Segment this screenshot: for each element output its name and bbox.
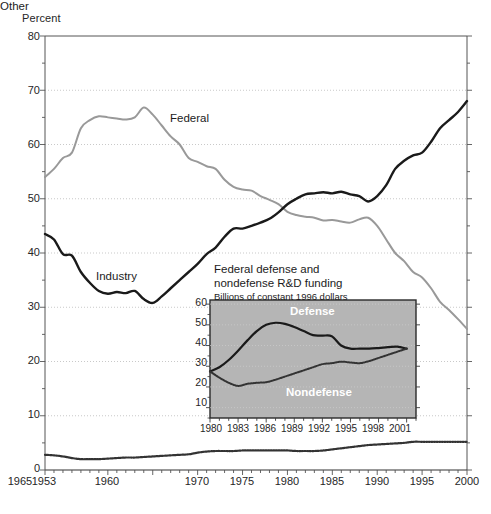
inset-series-label-nondefense: Nondefense — [286, 386, 352, 398]
y-tick-10: 10 — [12, 408, 40, 420]
y-tick-60: 60 — [12, 138, 40, 150]
inset-y-tick-40: 40 — [189, 336, 207, 348]
inset-y-tick-30: 30 — [189, 356, 207, 368]
inset-title-line2: nondefense R&D funding — [214, 277, 343, 291]
x-tick-1985: 1985 — [312, 475, 352, 487]
chart-canvas — [0, 0, 491, 514]
inset-series-label-defense: Defense — [290, 305, 335, 317]
series-label-other: Other — [0, 0, 29, 12]
inset-y-tick-20: 20 — [189, 376, 207, 388]
x-tick-2000: 2000 — [447, 475, 487, 487]
inset-x-tick-1989: 1989 — [277, 423, 307, 434]
y-tick-0: 0 — [12, 462, 40, 474]
inset-x-tick-1995: 1995 — [331, 423, 361, 434]
y-tick-70: 70 — [12, 84, 40, 96]
y-tick-40: 40 — [12, 246, 40, 258]
inset-x-tick-2001: 2001 — [385, 423, 415, 434]
x-tick-1995: 1995 — [402, 475, 442, 487]
x-tick-1965: 1965 — [0, 475, 40, 487]
inset-subtitle: Billions of constant 1996 dollars — [214, 291, 348, 302]
x-tick-1980: 1980 — [267, 475, 307, 487]
y-tick-80: 80 — [12, 30, 40, 42]
inset-y-tick-60: 60 — [189, 296, 207, 308]
inset-x-tick-1998: 1998 — [358, 423, 388, 434]
x-tick-1975: 1975 — [222, 475, 262, 487]
y-tick-30: 30 — [12, 300, 40, 312]
rd-funding-figure: Percent 80 70 60 50 40 30 20 10 0 1953 1… — [0, 0, 491, 514]
inset-x-tick-1986: 1986 — [250, 423, 280, 434]
series-label-federal: Federal — [170, 112, 209, 124]
inset-y-tick-10: 10 — [189, 396, 207, 408]
y-tick-20: 20 — [12, 354, 40, 366]
series-label-industry: Industry — [96, 270, 137, 282]
x-tick-1970: 1970 — [177, 475, 217, 487]
inset-y-tick-50: 50 — [189, 316, 207, 328]
x-tick-1990: 1990 — [357, 475, 397, 487]
x-tick-1960: 1960 — [87, 475, 127, 487]
inset-x-tick-1983: 1983 — [223, 423, 253, 434]
y-tick-50: 50 — [12, 192, 40, 204]
inset-x-tick-1992: 1992 — [304, 423, 334, 434]
inset-title-line1: Federal defense and — [214, 263, 320, 277]
inset-x-tick-1980: 1980 — [196, 423, 226, 434]
